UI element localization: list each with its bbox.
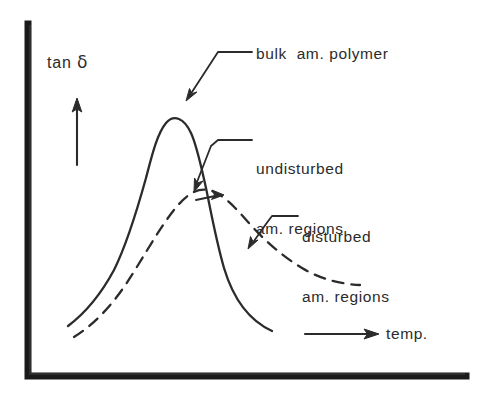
solid-curve-bulk-am-polymer — [68, 118, 272, 331]
y-axis-label: tan δ — [47, 52, 88, 73]
annotation-undisturbed-line-1: undisturbed — [256, 159, 344, 179]
annotation-disturbed-am-regions: disturbed am. regions — [302, 187, 390, 347]
y-axis-direction-arrow — [72, 98, 82, 165]
annotation-disturbed-line-2: am. regions — [302, 287, 390, 307]
leader-bulk-am-polymer — [186, 52, 252, 101]
x-axis-label: temp. — [386, 324, 428, 344]
annotation-bulk-am-polymer: bulk am. polymer — [256, 44, 389, 64]
pointer-arrow-dashed-peak — [196, 190, 224, 200]
figure-container: tan δ bulk am. polymer undisturbed am. r… — [0, 0, 488, 400]
delta-symbol: δ — [77, 52, 88, 72]
leader-undisturbed-am-regions — [194, 140, 252, 192]
y-axis-label-text: tan — [47, 54, 77, 71]
annotation-disturbed-line-1: disturbed — [302, 227, 390, 247]
